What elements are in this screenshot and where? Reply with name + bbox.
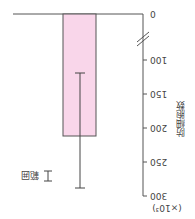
tick-label: 100 <box>150 55 167 65</box>
chart: 0 100 150 200 250 300 (×10³) 防細胞数 範囲 <box>0 0 195 219</box>
tick-label: 0 <box>150 9 156 19</box>
tick-label: 300 <box>150 191 167 201</box>
legend-label: 範囲 <box>21 170 39 181</box>
tick-label: 150 <box>150 89 167 99</box>
tick-label: 200 <box>150 123 167 133</box>
y-unit: (×10³) <box>152 203 182 213</box>
legend: 範囲 <box>21 170 52 181</box>
bar-chart: 0 100 150 200 250 300 (×10³) 防細胞数 範囲 <box>0 0 195 219</box>
tick-label: 250 <box>150 157 167 167</box>
y-axis-label: 防細胞数 <box>175 100 185 138</box>
y-axis: 0 100 150 200 250 300 (×10³) 防細胞数 <box>13 9 185 213</box>
